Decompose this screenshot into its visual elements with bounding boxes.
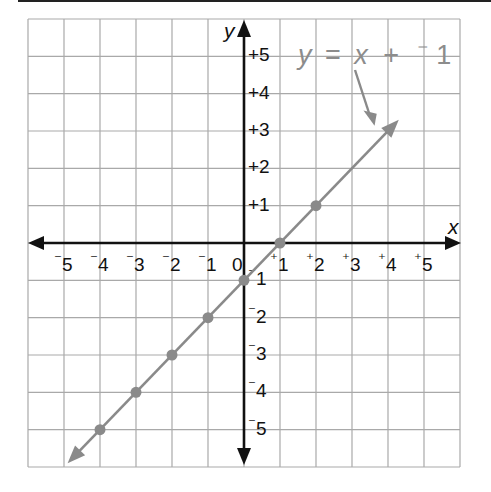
y-axis-label: y bbox=[222, 19, 236, 42]
series-line bbox=[76, 128, 391, 454]
y-tick-label: +5 bbox=[248, 44, 270, 65]
x-tick-label: ⁺3 bbox=[342, 250, 361, 275]
x-tick-label: ⁺1 bbox=[270, 250, 289, 275]
x-tick-label: 0 bbox=[232, 254, 243, 275]
data-point bbox=[239, 275, 250, 286]
equation-text: y = x + ⁻ 1 bbox=[296, 34, 451, 70]
data-point bbox=[311, 200, 322, 211]
data-point bbox=[131, 387, 142, 398]
x-axis-right-arrow-icon bbox=[445, 236, 461, 250]
annotation-arrow-icon bbox=[355, 70, 378, 127]
y-tick-label: +2 bbox=[248, 156, 270, 177]
y-tick-label: +3 bbox=[248, 119, 270, 140]
y-tick-label: ⁻5 bbox=[248, 414, 267, 439]
x-tick-label: ⁺4 bbox=[378, 250, 397, 275]
y-tick-label: ⁻4 bbox=[248, 376, 267, 401]
axes bbox=[28, 20, 461, 465]
x-tick-label: ⁻1 bbox=[198, 250, 217, 275]
data-point bbox=[203, 312, 214, 323]
y-tick-label: +4 bbox=[248, 82, 270, 103]
x-tick-label: ⁻5 bbox=[54, 250, 73, 275]
line-series bbox=[68, 120, 399, 463]
x-tick-label: ⁻2 bbox=[162, 250, 181, 275]
x-axis-label: x bbox=[447, 215, 460, 238]
x-axis-left-arrow-icon bbox=[28, 236, 44, 250]
equation-label: y = x + ⁻ 1 bbox=[296, 34, 451, 127]
x-tick-label: ⁺5 bbox=[414, 250, 433, 275]
x-tick-label: ⁻3 bbox=[126, 250, 145, 275]
coordinate-plane: ⁻5⁻4⁻3⁻2⁻10⁺1⁺2⁺3⁺4⁺5+5+4+3+2+1⁻1⁻2⁻3⁻4⁻… bbox=[0, 0, 491, 492]
data-point bbox=[275, 238, 286, 249]
x-tick-label: ⁺2 bbox=[306, 250, 325, 275]
data-point bbox=[167, 349, 178, 360]
y-axis-down-arrow-icon bbox=[237, 448, 251, 465]
y-tick-label: ⁻3 bbox=[248, 339, 267, 364]
x-tick-label: ⁻4 bbox=[90, 250, 109, 275]
data-point bbox=[95, 424, 106, 435]
y-tick-label: ⁻2 bbox=[248, 302, 267, 327]
y-tick-label: +1 bbox=[248, 194, 270, 215]
y-axis-up-arrow-icon bbox=[237, 20, 251, 37]
